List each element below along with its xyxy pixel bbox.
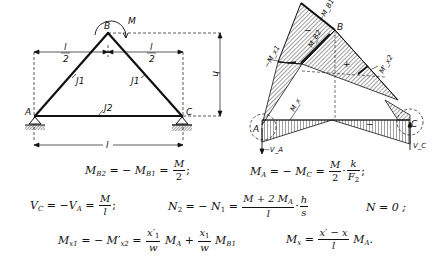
node-label-b-moment: B [337,22,343,32]
member-label-left: J1 [74,76,84,86]
member-label-tie: J2 [102,103,113,113]
half-span-num-right: l [150,42,153,52]
equation-n0: N = 0 ; [366,202,406,213]
height-label: h [211,71,221,77]
equation-mx: Mx = x′ − xl MA. [286,228,373,251]
label-neg-mb1: −M_B1 [317,0,336,23]
span-label: l [106,140,109,150]
equation-n2: N2 = − N1 = M + 2 MAl·hs [168,194,309,219]
label-mx2: M'_x2 [378,53,395,75]
moment-label: M [128,16,136,26]
node-label-a: A [24,107,31,117]
label-vc: V_C [413,142,426,150]
node-label-a-moment: A [252,124,259,134]
half-span-den-left: 2 [63,54,69,64]
sign-positive: + [343,59,351,69]
moment-area-tie-left [262,120,332,142]
equation-ma: MA = − MC = M2·kF2; [250,159,365,184]
equation-vc: VC = −VA = Ml; [30,194,116,217]
node-label-b: B [104,21,110,31]
half-span-den-right: 2 [149,54,155,64]
label-mx: M_x [289,96,303,113]
support-pin-a-icon [25,117,45,130]
sign-negative-top: − [304,25,312,35]
sign-negative-bottom: − [366,119,374,129]
equation-mb: MB2 = − MB1 = M2; [85,159,190,182]
half-span-dimension [34,50,183,54]
half-span-num-left: l [64,42,67,52]
moment-diagram: −M_B1 B M_B2 − + −M_x1 M'_x2 M_x A C − −… [250,0,426,154]
equation-mx1: Mx1 = − M′x2 = x′1w MA + x1w MB1 [58,228,236,253]
member-left [35,33,108,116]
node-label-c-moment: C [411,119,418,129]
frame-diagram: B M A C l 2 l 2 h J1 J1 J2 l [24,16,222,150]
moment-area-left-member [262,62,302,125]
label-va: −V_A [264,146,283,154]
node-label-c: C [186,107,193,117]
member-label-right: J1 [129,76,139,86]
support-pin-c-icon [172,117,192,131]
